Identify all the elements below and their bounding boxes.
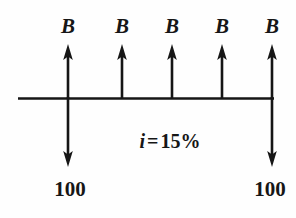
inflow-arrow-2 [117, 44, 127, 99]
interest-equals-sign: = [145, 130, 160, 152]
inflow-arrow-4 [217, 44, 227, 99]
inflow-arrows-group [63, 44, 277, 99]
inflow-arrow-3 [167, 44, 177, 99]
diagram-canvas [0, 0, 296, 218]
inflow-label-2: B [115, 16, 129, 37]
interest-symbol: i [140, 130, 146, 152]
cash-flow-diagram: B B B B B i=15% 100 100 [0, 0, 296, 218]
outflow-label-right: 100 [254, 179, 286, 200]
interest-value: 15% [160, 130, 200, 152]
inflow-arrow-5 [267, 44, 277, 99]
inflow-label-5: B [265, 16, 279, 37]
interest-rate-label: i=15% [140, 131, 201, 151]
outflow-label-left: 100 [54, 179, 86, 200]
inflow-label-3: B [165, 16, 179, 37]
outflow-arrow-left [63, 97, 73, 167]
outflow-arrow-right [267, 97, 277, 167]
inflow-arrow-1 [63, 44, 73, 99]
inflow-label-4: B [215, 16, 229, 37]
inflow-label-1: B [61, 16, 75, 37]
